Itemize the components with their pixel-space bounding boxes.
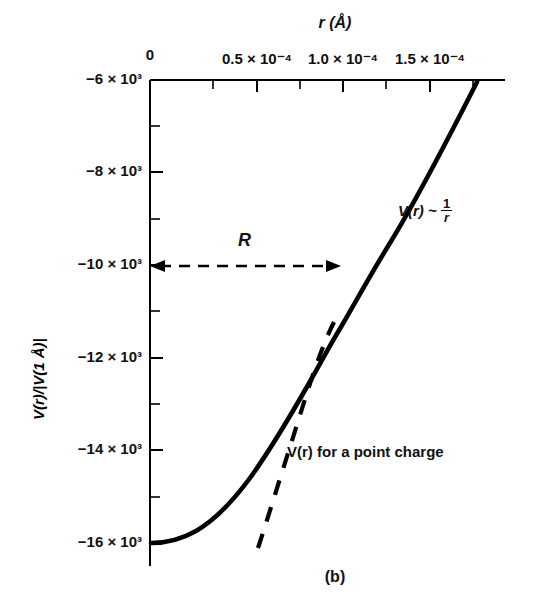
y-tick-label-0: −6 × 10³ (22, 70, 142, 87)
y-tick-label-1: −8 × 10³ (22, 162, 142, 179)
y-tick-label-5: −16 × 10³ (14, 533, 142, 550)
potential-chart (0, 0, 536, 612)
y-tick-label-2: −10 × 10³ (14, 255, 142, 272)
one-over-r-fraction: 1r (441, 197, 452, 225)
y-axis-major-ticks (150, 172, 163, 543)
x-axis-title: r (Å) (285, 14, 385, 32)
potential-curve (151, 82, 477, 543)
x-tick-label-3: 1.5 × 10⁻⁴ (375, 50, 485, 68)
x-tick-label-0: 0 (140, 46, 160, 63)
point-charge-annotation: V(r) for a point charge (287, 443, 444, 460)
y-tick-label-4: −14 × 10³ (14, 440, 142, 457)
radius-annotation: R (238, 230, 251, 251)
fraction-denominator: r (441, 211, 452, 224)
coulomb-tail-annotation: V(r) ~ 1r (398, 198, 452, 226)
coulomb-tail-prefix: V(r) ~ (398, 202, 441, 219)
y-axis-title: V(r)/|V(1 Å)| (30, 338, 47, 420)
y-axis-minor-ticks (150, 126, 160, 497)
y-axis-title-text: V(r)/|V(1 Å)| (30, 338, 47, 420)
x-axis-major-ticks (150, 80, 430, 92)
x-axis-title-text: r (Å) (319, 14, 352, 31)
radius-arrow (150, 260, 341, 272)
figure-caption: (b) (295, 568, 375, 586)
point-charge-annotation-text: V(r) for a point charge (287, 443, 444, 460)
fraction-numerator: 1 (441, 197, 452, 211)
